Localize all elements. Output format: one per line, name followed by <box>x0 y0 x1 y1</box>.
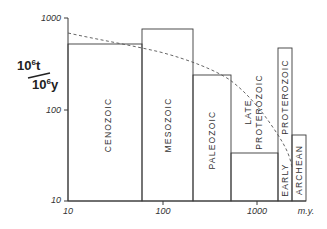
y-tick-label-1000: 1000 <box>41 13 61 23</box>
era-label-early: EARLY <box>280 163 290 196</box>
era-label-cenozoic: CENOZOIC <box>103 98 113 152</box>
x-tick-label-10: 10 <box>63 206 73 216</box>
era-label-proterozoic: PROTEROZOIC <box>280 59 290 135</box>
era-label-mesozoic: MESOZOIC <box>163 98 173 153</box>
y-axis-label: 106t 106y <box>17 58 59 92</box>
chart: 1000 100 10 10 100 1000 m.y. 106t 106y C… <box>0 0 327 229</box>
y-tick-label-10: 10 <box>51 195 61 205</box>
axes <box>64 18 306 205</box>
x-tick-label-1000: 1000 <box>247 206 267 216</box>
era-label-late-proterozoic: PROTEROZOIC <box>254 74 264 150</box>
y-tick-label-100: 100 <box>46 105 61 115</box>
x-axis-unit: m.y. <box>298 206 314 216</box>
y-label-top-base: 10 <box>17 58 31 73</box>
bar-late-proterozoic <box>231 153 278 201</box>
era-label-paleozoic: PALEOZOIC <box>207 111 217 170</box>
era-label-late: LATE <box>243 99 253 124</box>
y-label-bottom-base: 10 <box>32 77 46 92</box>
svg-text:106t: 106t <box>17 58 41 73</box>
y-label-bottom-unit: y <box>51 77 59 92</box>
era-label-archean: ARCHEAN <box>294 145 304 195</box>
x-tick-label-100: 100 <box>155 206 170 216</box>
svg-text:106y: 106y <box>32 77 59 92</box>
y-label-top-unit: t <box>36 58 41 73</box>
